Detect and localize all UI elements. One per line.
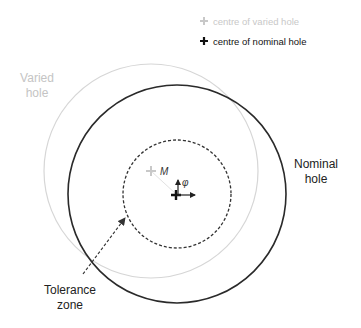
nominal-hole-label-line1: Nominal [294,157,338,171]
varied-hole-label-line2: hole [26,86,49,100]
tolerance-zone-diagram: centre of varied hole centre of nominal … [0,0,361,328]
nominal-center-plus-icon [200,37,208,45]
legend-varied-center: centre of varied hole [200,16,299,27]
legend-nominal-center: centre of nominal hole [200,36,306,47]
varied-center-plus-icon [200,17,208,25]
tolerance-zone-label-line1: Tolerance [44,283,96,297]
nominal-hole-label-line2: hole [305,172,328,186]
point-m-label: M [160,166,169,177]
tolerance-zone-pointer-arrow [83,218,125,274]
phi-label: φ [182,177,189,188]
legend: centre of varied hole centre of nominal … [200,16,306,47]
legend-varied-label: centre of varied hole [213,16,299,27]
varied-hole-label-line1: Varied [20,71,54,85]
tolerance-zone-label-line2: zone [57,298,83,312]
legend-nominal-label: centre of nominal hole [213,36,306,47]
